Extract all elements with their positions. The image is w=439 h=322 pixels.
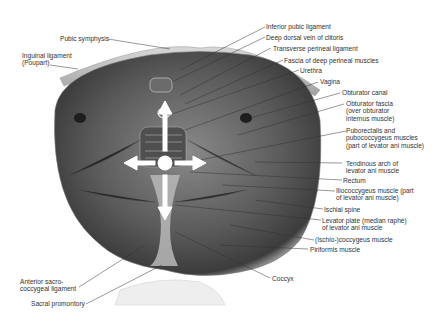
label-obturator-canal: Obturator canal [342,89,387,96]
label-piriformis: Piriformis muscle [310,246,360,253]
label-transverse-perineal-ligament: Transverse perineal ligament [273,45,358,52]
label-iliococcygeus: Iliococcygeus muscle (part of levator an… [336,187,416,202]
label-inferior-pubic-ligament: Inferior pubic ligament [266,23,331,30]
label-deep-dorsal-vein: Deep dorsal vein of clitoris [266,34,343,41]
label-anterior-sacrococcygeal-ligament: Anterior sacro-coccygeal ligament [20,278,82,293]
label-obturator-fascia: Obturator fascia (over obturator internu… [346,100,406,122]
label-fascia-deep-perineal: Fascia of deep perineal muscles [284,57,379,64]
pelvic-floor-diagram: Pubic symphysis Inguinal ligament (Poupa… [0,0,439,322]
label-vagina: Vagina [320,78,340,85]
label-tendinous-arch: Tendinous arch of levator ani muscle [346,160,411,175]
label-urethra: Urethra [300,67,322,74]
label-inguinal-ligament: Inguinal ligament (Poupart) [22,52,82,67]
label-ischial-spine: Ischial spine [324,206,360,213]
label-puborectalis: Puborectalis and pubococcygeus muscles (… [346,127,426,149]
label-sacral-promontory: Sacral promontory [31,300,85,307]
label-ischiococcygeus: (Ischio-)coccygeus muscle [315,236,393,243]
label-rectum: Rectum [343,177,366,184]
label-pubic-symphysis: Pubic symphysis [60,35,109,42]
label-coccyx: Coccyx [272,275,294,282]
label-levator-plate: Levator plate (median raphé) of levator … [322,217,412,232]
